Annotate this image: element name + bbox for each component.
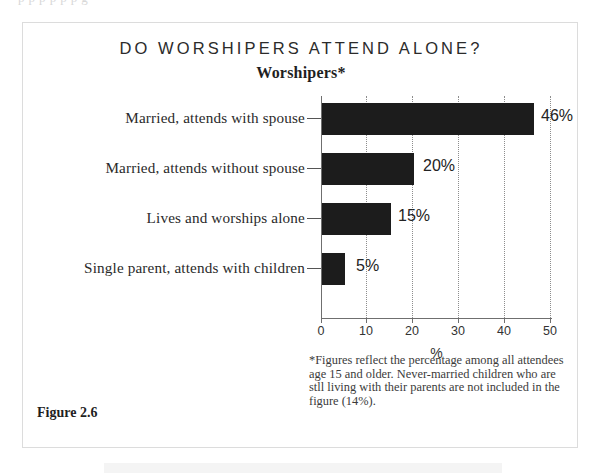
x-tick-20 — [412, 318, 413, 323]
figure-footnote: *Figures reflect the percentage among al… — [309, 354, 567, 408]
x-tick-label-10: 10 — [359, 324, 373, 338]
bar-category-label: Married, attends with spouse — [125, 109, 305, 127]
leader-line — [307, 268, 321, 269]
bar-value-label: 46% — [541, 107, 573, 125]
bar-category-label: Married, attends without spouse — [105, 159, 305, 177]
x-tick-10 — [366, 318, 367, 323]
bar-category-label: Single parent, attends with children — [84, 259, 305, 277]
bar-lives-and-worships-alone — [322, 203, 391, 235]
x-axis-line — [321, 318, 552, 319]
bar-category-label: Lives and worships alone — [147, 209, 305, 227]
x-tick-50 — [550, 318, 551, 323]
figure-caption: Figure 2.6 — [37, 405, 97, 421]
x-tick-label-0: 0 — [318, 324, 325, 338]
bar-value-label: 15% — [398, 207, 430, 225]
bar-row: Single parent, attends with children 5% — [23, 251, 579, 287]
bar-married-without-spouse — [322, 153, 414, 185]
leader-line — [307, 168, 321, 169]
leader-line — [307, 118, 321, 119]
bleed-text: p p p p p p g — [18, 0, 88, 6]
x-tick-label-50: 50 — [543, 324, 557, 338]
x-tick-30 — [458, 318, 459, 323]
page-top-bleed-text: p p p p p p g — [0, 0, 604, 14]
bar-single-parent-with-children — [322, 253, 345, 285]
bar-value-label: 5% — [356, 257, 379, 275]
x-tick-label-30: 30 — [451, 324, 465, 338]
x-tick-0 — [321, 318, 322, 323]
bar-married-with-spouse — [322, 103, 534, 135]
bar-value-label: 20% — [423, 157, 455, 175]
x-tick-40 — [504, 318, 505, 323]
figure-box: DO WORSHIPERS ATTEND ALONE? Worshipers* … — [22, 22, 578, 448]
page-bottom-bleed — [104, 463, 502, 473]
bar-row: Lives and worships alone 15% — [23, 201, 579, 237]
x-tick-label-40: 40 — [497, 324, 511, 338]
bar-row: Married, attends without spouse 20% — [23, 151, 579, 187]
leader-line — [307, 218, 321, 219]
bar-row: Married, attends with spouse 46% — [23, 101, 579, 137]
x-tick-label-20: 20 — [405, 324, 419, 338]
